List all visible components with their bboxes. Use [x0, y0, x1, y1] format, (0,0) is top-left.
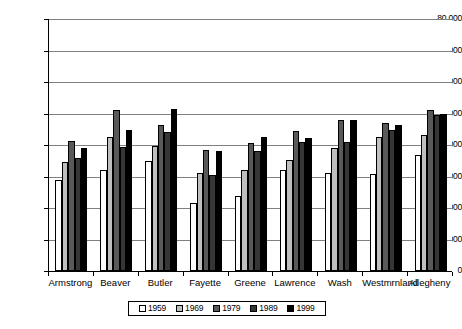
bar-chart: 010,00020,00030,00040,00050,00060,00070,…	[0, 0, 462, 329]
legend-swatch-icon	[176, 305, 183, 312]
legend-label: 1959	[148, 304, 166, 313]
legend-swatch-icon	[139, 305, 146, 312]
legend-label: 1999	[296, 304, 314, 313]
bar	[350, 120, 356, 271]
legend-swatch-icon	[250, 305, 257, 312]
bar-group	[415, 19, 447, 271]
bar	[216, 151, 222, 271]
x-tick-label: Westmrnland	[362, 277, 407, 288]
bars-layer	[49, 19, 453, 271]
bar	[305, 138, 311, 271]
x-tick-label: Lawrence	[272, 277, 317, 288]
x-tick-mark	[93, 272, 94, 276]
x-tick-mark	[138, 272, 139, 276]
x-tick-label: Butler	[138, 277, 183, 288]
bar-group	[100, 19, 132, 271]
legend-swatch-icon	[287, 305, 294, 312]
bar	[171, 109, 177, 271]
bar	[440, 114, 446, 271]
x-tick-label: Armstrong	[48, 277, 93, 288]
legend-item: 1999	[287, 304, 314, 313]
bar	[81, 148, 87, 271]
x-tick-mark	[228, 272, 229, 276]
bar-group	[190, 19, 222, 271]
plot-area	[48, 19, 452, 272]
x-tick-label: Allegheny	[407, 277, 452, 288]
bar-group	[370, 19, 402, 271]
legend-label: 1989	[259, 304, 277, 313]
x-tick-label: Wash	[317, 277, 362, 288]
chart-legend: 19591969197919891999	[128, 301, 326, 316]
bar-group	[145, 19, 177, 271]
legend-label: 1979	[222, 304, 240, 313]
x-tick-label: Fayette	[183, 277, 228, 288]
legend-label: 1969	[185, 304, 203, 313]
x-tick-mark	[362, 272, 363, 276]
x-tick-mark	[452, 272, 453, 276]
x-tick-mark	[183, 272, 184, 276]
legend-item: 1979	[213, 304, 240, 313]
legend-item: 1989	[250, 304, 277, 313]
bar-group	[280, 19, 312, 271]
bar	[126, 130, 132, 271]
bar-group	[235, 19, 267, 271]
x-tick-mark	[407, 272, 408, 276]
legend-item: 1959	[139, 304, 166, 313]
x-tick-label: Beaver	[93, 277, 138, 288]
x-tick-label: Greene	[228, 277, 273, 288]
bar	[261, 137, 267, 272]
bar-group	[325, 19, 357, 271]
bar-group	[55, 19, 87, 271]
legend-item: 1969	[176, 304, 203, 313]
x-tick-mark	[272, 272, 273, 276]
legend-swatch-icon	[213, 305, 220, 312]
bar	[395, 125, 401, 271]
x-tick-mark	[48, 272, 49, 276]
x-tick-mark	[317, 272, 318, 276]
